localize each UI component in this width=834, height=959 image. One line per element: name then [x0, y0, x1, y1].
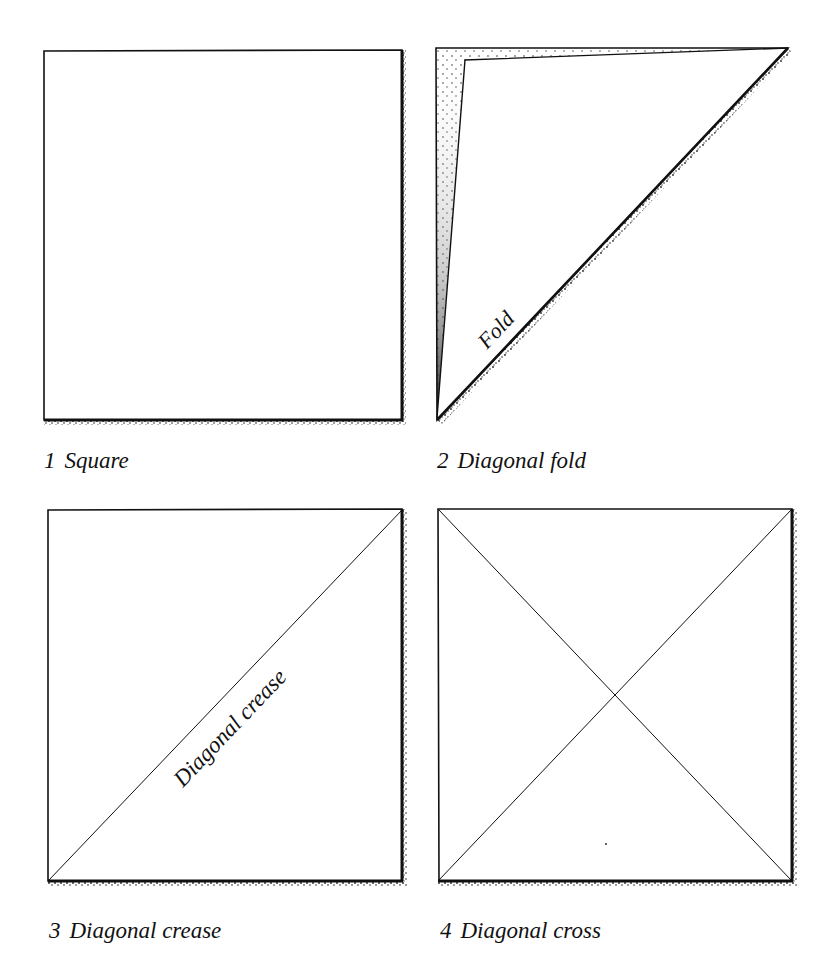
caption-figure-3: 3Diagonal crease [49, 918, 221, 944]
square-outline [44, 50, 402, 420]
caption-number: 1 [44, 448, 56, 473]
caption-figure-1: 1Square [44, 448, 129, 474]
caption-number: 3 [49, 918, 61, 943]
figure-4-diagonal-cross [438, 509, 797, 886]
caption-title: Diagonal cross [461, 918, 601, 943]
figure-3-diagonal-crease: Diagonal crease [48, 509, 407, 886]
caption-title: Diagonal fold [458, 448, 586, 473]
figure-1-square [44, 50, 406, 425]
caption-title: Square [65, 448, 129, 473]
figure-2-diagonal-fold: Fold [436, 48, 792, 424]
folding-diagrams: Fold Diagonal crease [0, 0, 834, 959]
caption-figure-2: 2Diagonal fold [437, 448, 586, 474]
caption-number: 2 [437, 448, 449, 473]
caption-title: Diagonal crease [70, 918, 222, 943]
caption-figure-4: 4Diagonal cross [440, 918, 601, 944]
flap-shade [436, 48, 465, 418]
fold-line [437, 48, 788, 420]
caption-number: 4 [440, 918, 452, 943]
fold-shadow [437, 48, 792, 424]
